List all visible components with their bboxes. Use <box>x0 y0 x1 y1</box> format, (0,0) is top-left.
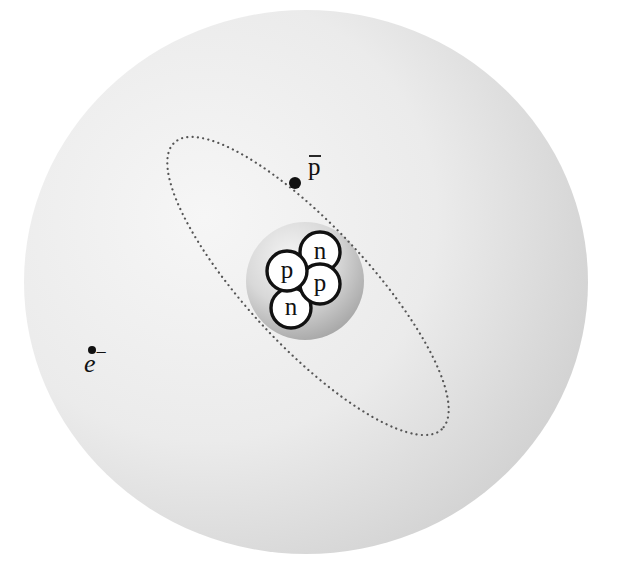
proton-nucleon: p <box>267 251 307 291</box>
neutron-label: n <box>314 237 327 264</box>
atom-diagram: nnpp p e− <box>0 0 617 565</box>
electron-label-letter: e <box>84 349 96 378</box>
electron-charge: − <box>96 341 107 363</box>
antiproton-label: p <box>308 153 321 180</box>
proton-label: p <box>281 256 294 283</box>
neutron-label: n <box>285 293 298 320</box>
diagram-canvas: nnpp p e− <box>0 0 617 565</box>
proton-label: p <box>314 269 327 296</box>
antiproton-dot <box>289 177 301 189</box>
